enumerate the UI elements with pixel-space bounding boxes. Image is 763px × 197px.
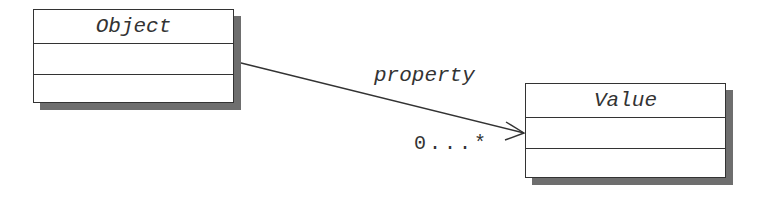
class-value-operations bbox=[526, 149, 725, 180]
class-value-attributes bbox=[526, 118, 725, 149]
multiplicity-label: 0...* bbox=[414, 132, 489, 155]
class-object-name: Object bbox=[34, 10, 233, 44]
class-value-name: Value bbox=[526, 84, 725, 118]
class-object-attributes bbox=[34, 44, 233, 75]
association-role-label: property bbox=[374, 64, 475, 87]
class-object[interactable]: Object bbox=[33, 9, 234, 103]
class-value[interactable]: Value bbox=[525, 83, 726, 178]
class-object-operations bbox=[34, 75, 233, 106]
